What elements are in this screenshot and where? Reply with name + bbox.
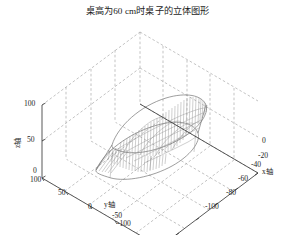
z-tick-0: 0 [33,167,37,175]
surface-plot [0,0,295,235]
y-axis-label: y轴 [104,201,115,208]
surface-mesh [96,95,207,179]
z-tick-50: 50 [27,136,35,144]
figure-canvas: 桌高为60 cm时桌子的立体图形 [0,0,295,235]
z-tick-100: 100 [24,100,35,108]
x-tick-0: 0 [262,137,266,145]
y-tick-neg100: -100 [117,220,131,228]
x-tick-neg40: -40 [251,161,261,169]
z-axis-label: z轴 [14,138,21,148]
grid-lines [42,32,258,235]
x-axis-label: x轴 [262,168,273,175]
y-tick-100: 100 [30,176,41,184]
x-tick-neg20: -20 [258,152,268,160]
x-tick-neg80: -80 [226,189,236,197]
y-axis [42,178,160,235]
y-tick-50: 50 [58,189,66,197]
x-tick-neg100: -100 [205,203,219,211]
y-tick-0: 0 [88,203,92,211]
x-tick-neg60: -60 [238,175,248,183]
